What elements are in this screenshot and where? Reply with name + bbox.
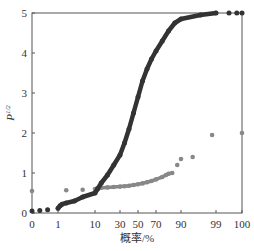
data-point <box>140 181 145 186</box>
y-tick-label: 4 <box>22 47 28 59</box>
data-point <box>170 171 175 176</box>
x-tick-label: 0 <box>29 218 35 230</box>
data-point <box>136 95 141 100</box>
data-point <box>234 11 239 16</box>
data-point <box>240 11 245 16</box>
y-axis: 012345 <box>22 7 36 219</box>
x-tick-label: 30 <box>115 218 127 230</box>
data-point <box>166 29 171 34</box>
data-point <box>160 39 165 44</box>
x-tick-label: 99 <box>211 218 223 230</box>
data-point <box>95 187 100 192</box>
data-point <box>80 188 85 193</box>
probability-plot: 012345 01103050709099100 概率/% P1/2 <box>0 0 254 251</box>
data-point <box>190 155 195 160</box>
data-point <box>30 209 35 214</box>
data-point <box>111 163 116 168</box>
data-point <box>131 111 136 116</box>
data-point <box>154 177 159 182</box>
y-tick-label: 5 <box>22 7 28 19</box>
data-point <box>64 201 69 206</box>
data-point <box>149 179 154 184</box>
data-point <box>214 11 219 16</box>
x-tick-label: 1 <box>55 218 61 230</box>
y-tick-label: 1 <box>22 167 28 179</box>
y-tick-label: 0 <box>22 207 28 219</box>
data-point <box>80 195 85 200</box>
data-point <box>172 21 177 26</box>
y-axis-title: P1/2 <box>4 105 16 122</box>
data-point <box>45 207 50 212</box>
y-axis-title-sup: 1/2 <box>4 105 12 114</box>
x-tick-label: 50 <box>133 218 145 230</box>
data-point <box>154 49 159 54</box>
x-tick-label: 10 <box>90 218 102 230</box>
data-point <box>118 184 123 189</box>
data-point <box>111 185 116 190</box>
data-point <box>122 184 127 189</box>
data-point <box>179 17 184 22</box>
data-point <box>37 208 42 213</box>
data-point <box>145 180 150 185</box>
dark-series-line <box>58 13 216 208</box>
data-point <box>30 189 35 194</box>
data-point <box>240 131 245 136</box>
data-point <box>179 157 184 162</box>
x-axis-title: 概率/% <box>120 231 154 244</box>
data-point <box>198 13 203 18</box>
data-point <box>72 199 77 204</box>
data-point <box>131 183 136 188</box>
data-point <box>127 127 132 132</box>
gray-series <box>30 131 245 194</box>
data-point <box>99 181 104 186</box>
x-tick-label: 70 <box>151 218 163 230</box>
y-tick-label: 3 <box>22 87 28 99</box>
data-point <box>64 188 69 193</box>
data-point <box>105 173 110 178</box>
data-point <box>118 153 123 158</box>
x-tick-label: 100 <box>234 218 251 230</box>
data-point <box>122 141 127 146</box>
data-point <box>136 182 141 187</box>
y-tick-label: 2 <box>22 127 28 139</box>
data-point <box>210 133 215 138</box>
data-point <box>175 163 180 168</box>
data-point <box>140 79 145 84</box>
x-tick-label: 90 <box>176 218 188 230</box>
data-point <box>105 185 110 190</box>
data-point <box>227 11 232 16</box>
data-point <box>149 57 154 62</box>
svg-text:P1/2: P1/2 <box>4 105 16 122</box>
data-point <box>127 184 132 189</box>
data-point <box>145 67 150 72</box>
